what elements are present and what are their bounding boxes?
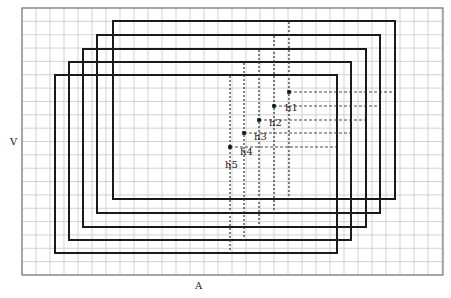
point-label-h2: h2 — [269, 117, 282, 128]
y-axis-label: V — [9, 136, 18, 147]
point-label-h5: h5 — [225, 159, 238, 170]
point-marker — [257, 118, 261, 122]
point-label-h4: h4 — [240, 146, 253, 157]
diagram-canvas: h1h2h3h4h5 V A — [0, 0, 451, 298]
point-marker — [228, 145, 232, 149]
diagram-svg: h1h2h3h4h5 V A — [0, 0, 451, 298]
point-label-h1: h1 — [285, 102, 298, 113]
points: h1h2h3h4h5 — [225, 22, 394, 253]
point-marker — [287, 90, 291, 94]
point-marker — [242, 131, 246, 135]
x-axis-label: A — [194, 280, 203, 291]
point-marker — [272, 104, 276, 108]
